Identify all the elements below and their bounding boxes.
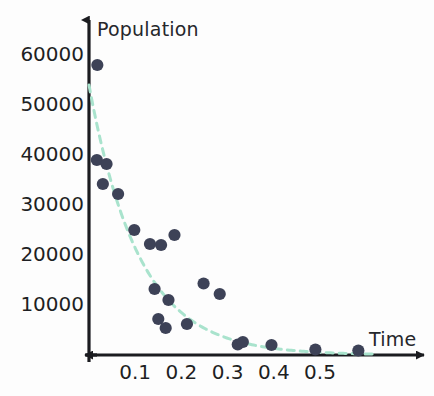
data-point xyxy=(128,224,140,236)
data-point xyxy=(214,288,226,300)
exponential-fit-curve xyxy=(89,85,375,354)
data-point xyxy=(97,178,109,190)
data-point xyxy=(168,229,180,241)
data-point xyxy=(112,188,124,200)
data-point xyxy=(149,283,161,295)
fit-line xyxy=(89,85,375,354)
scatter-chart: Population Time 100002000030000400005000… xyxy=(0,0,434,396)
axes-group xyxy=(85,20,424,362)
data-point xyxy=(352,344,364,356)
data-point xyxy=(162,294,174,306)
data-point xyxy=(91,59,103,71)
x-tick-label: 0.5 xyxy=(293,360,347,384)
data-point xyxy=(100,158,112,170)
y-tick-label: 30000 xyxy=(8,192,84,216)
y-axis-title: Population xyxy=(97,18,199,40)
y-tick-label: 20000 xyxy=(8,242,84,266)
data-point xyxy=(181,318,193,330)
data-point xyxy=(155,239,167,251)
y-tick-label: 40000 xyxy=(8,142,84,166)
data-points-group xyxy=(91,59,365,357)
data-point xyxy=(197,277,209,289)
data-point xyxy=(144,238,156,250)
y-tick-label: 60000 xyxy=(8,42,84,66)
data-point xyxy=(309,343,321,355)
y-tick-label: 10000 xyxy=(8,292,84,316)
data-point xyxy=(265,339,277,351)
y-tick-label: 50000 xyxy=(8,92,84,116)
x-axis-title: Time xyxy=(369,328,416,350)
data-point xyxy=(237,336,249,348)
data-point xyxy=(160,322,172,334)
